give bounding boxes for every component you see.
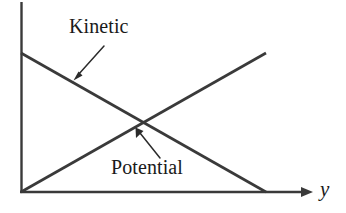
figure-graphics [0,0,346,213]
kinetic-pointer-shaft [78,46,104,75]
x-axis-arrowhead-icon [301,187,313,197]
energy-vs-height-figure: Kinetic Potential y [0,0,346,213]
kinetic-pointer-arrowhead-icon [74,72,83,81]
kinetic-curve-label: Kinetic [69,16,129,36]
potential-curve-label: Potential [111,157,183,177]
potential-pointer-shaft [140,133,160,158]
x-axis-label: y [320,179,329,200]
